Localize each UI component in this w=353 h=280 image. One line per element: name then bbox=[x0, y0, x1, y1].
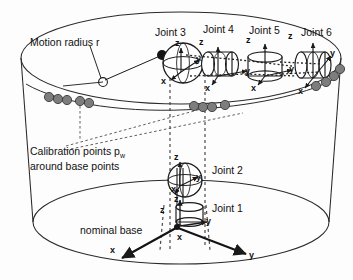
calibration-points-label: Calibration points pw around base points bbox=[30, 145, 125, 172]
calibration-point bbox=[75, 96, 84, 105]
joint4-axis-y-label: y bbox=[245, 66, 250, 76]
calibration-point bbox=[220, 100, 229, 109]
calibration-point bbox=[53, 94, 62, 103]
calibration-point bbox=[84, 98, 93, 107]
joint3-axis-x-label: x bbox=[161, 76, 166, 86]
joint6-label: Joint 6 bbox=[301, 26, 332, 38]
calibration-points-text-line1: Calibration points p bbox=[30, 145, 120, 157]
joint1-axis-y bbox=[180, 222, 207, 226]
base-axis-x-label: x bbox=[110, 245, 115, 255]
joint1-label: Joint 1 bbox=[212, 202, 243, 214]
motion-radius-label: Motion radius r bbox=[30, 36, 99, 48]
calibration-point bbox=[207, 102, 216, 111]
nominal-base-origin bbox=[174, 224, 180, 230]
calibration-points-text-line2: around base points bbox=[30, 160, 119, 172]
joint1-axis-y-label: y bbox=[206, 216, 211, 226]
joint3-axis-y-label: y bbox=[196, 54, 201, 64]
joint6-cyl-cap-left bbox=[295, 52, 307, 78]
joint4-cyl-cap-left bbox=[202, 52, 215, 76]
joint5-axis-y-label: y bbox=[289, 64, 294, 74]
motion-radius-group bbox=[63, 46, 167, 86]
calibration-point bbox=[321, 77, 330, 86]
base-axis-z-label: z bbox=[160, 205, 165, 215]
calibration-point bbox=[44, 92, 53, 101]
joint4-label: Joint 4 bbox=[203, 23, 234, 35]
joint3-axis-z-label: z bbox=[175, 38, 180, 48]
joint2-label: Joint 2 bbox=[212, 164, 243, 176]
joint6-axis-y-label: y bbox=[330, 48, 335, 58]
calibration-cluster-mid bbox=[189, 100, 229, 111]
calibration-leader-upper bbox=[66, 108, 205, 146]
joint5-axis-x-label: x bbox=[251, 83, 256, 93]
cylinder-left-wall bbox=[21, 58, 33, 222]
joint4-axis-z-label: z bbox=[199, 37, 204, 47]
joint4-axis-x-label: x bbox=[205, 83, 210, 93]
calibration-point bbox=[189, 101, 198, 110]
joint2-axis-y-label: y bbox=[196, 172, 201, 182]
joint6-axis-x-label: x bbox=[298, 86, 303, 96]
motion-radius-leader bbox=[90, 46, 101, 78]
joint4-axis-x bbox=[212, 76, 218, 85]
base-axis-y-label: y bbox=[249, 250, 254, 260]
calibration-point bbox=[198, 102, 207, 111]
base-axis-x-origin-label: x bbox=[177, 232, 182, 242]
calibration-point bbox=[311, 81, 320, 90]
joint5-axis-z-label: z bbox=[246, 35, 251, 45]
dashed-base-right bbox=[206, 205, 210, 250]
calibration-points-subscript: w bbox=[120, 152, 125, 159]
diagram-canvas: Motion radius r Calibration points pw ar… bbox=[0, 0, 353, 280]
base-axis-y bbox=[178, 228, 246, 254]
motion-radius-line-far bbox=[63, 82, 103, 86]
joint2-axis-z-label: z bbox=[174, 152, 179, 162]
joint3-label: Joint 3 bbox=[155, 26, 186, 38]
joint4-body bbox=[202, 52, 239, 76]
calibration-point bbox=[335, 64, 344, 73]
nominal-base-label: nominal base bbox=[80, 224, 142, 236]
calibration-point bbox=[62, 95, 71, 104]
motion-radius-line bbox=[105, 56, 160, 80]
joint6-axis-z-label: z bbox=[288, 31, 293, 41]
joint2-axis-x-label: x bbox=[171, 184, 176, 194]
joint5-label: Joint 5 bbox=[249, 24, 280, 36]
joint1-axis-z-label: z bbox=[174, 194, 179, 204]
